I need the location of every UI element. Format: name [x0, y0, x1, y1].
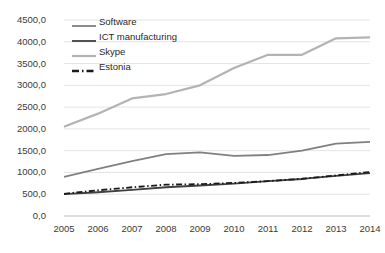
legend-line-ict-manufacturing-icon [72, 32, 96, 42]
legend-item: ICT manufacturing [72, 29, 177, 44]
x-axis-tick-label: 2009 [183, 223, 217, 234]
legend-item: Software [72, 14, 177, 29]
legend-label: ICT manufacturing [99, 32, 177, 42]
x-axis-tick-label: 2007 [115, 223, 149, 234]
y-axis-tick-label: 4000,0 [2, 36, 46, 47]
y-axis-tick-label: 500,0 [2, 188, 46, 199]
legend-item: Estonia [72, 59, 177, 74]
chart-legend: SoftwareICT manufacturingSkypeEstonia [72, 14, 177, 74]
y-axis-tick-label: 2000,0 [2, 123, 46, 134]
legend-item: Skype [72, 44, 177, 59]
x-axis-tick-label: 2013 [319, 223, 353, 234]
legend-line-skype-icon [72, 47, 96, 57]
x-axis-tick-label: 2014 [353, 223, 385, 234]
legend-label: Software [99, 17, 137, 27]
x-axis-tick-label: 2005 [47, 223, 81, 234]
x-axis-tick-label: 2011 [251, 223, 285, 234]
x-axis-tick-label: 2008 [149, 223, 183, 234]
legend-label: Estonia [99, 62, 131, 72]
legend-line-estonia-icon [72, 62, 96, 72]
legend-label: Skype [99, 47, 125, 57]
series-line-software [64, 142, 370, 177]
y-axis-tick-label: 1000,0 [2, 166, 46, 177]
y-axis-tick-label: 0,0 [2, 210, 46, 221]
x-axis-tick-label: 2010 [217, 223, 251, 234]
y-axis-tick-label: 1500,0 [2, 145, 46, 156]
x-axis-tick-label: 2012 [285, 223, 319, 234]
x-axis-tick-label: 2006 [81, 223, 115, 234]
y-axis-tick-label: 2500,0 [2, 101, 46, 112]
y-axis-tick-label: 4500,0 [2, 14, 46, 25]
legend-line-software-icon [72, 17, 96, 27]
y-axis-tick-label: 3000,0 [2, 79, 46, 90]
y-axis-tick-label: 3500,0 [2, 58, 46, 69]
series-line-estonia [64, 172, 370, 194]
